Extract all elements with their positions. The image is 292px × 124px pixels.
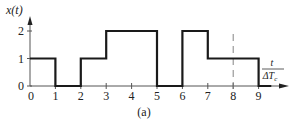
y-axis-label: x(t) [5,3,23,17]
x-tick-label: 0 [28,89,34,103]
ticks [27,31,259,89]
x-tick-label: 3 [103,89,109,103]
x-tick-label: 5 [154,89,160,103]
x-tick-label: 8 [230,89,236,103]
y-tick-labels: 012 [18,24,24,93]
x-tick-label: 6 [179,89,185,103]
step-signal-plot: 0123456789 012 x(t) t ΔTc (a) [0,0,292,124]
x-axis-arrow-icon [279,84,289,89]
y-tick-label: 2 [18,24,24,38]
x-tick-label: 7 [205,89,211,103]
x-label-numerator: t [271,57,274,68]
x-tick-label: 9 [256,89,262,103]
x-label-denominator: ΔTc [262,70,278,83]
y-tick-label: 0 [18,79,24,93]
signal-trace [30,31,271,86]
x-axis-label: t ΔTc [262,57,284,83]
x-tick-label: 2 [78,89,84,103]
y-axis-arrow-icon [28,16,33,25]
x-tick-label: 1 [52,89,58,103]
x-tick-labels: 0123456789 [28,89,262,103]
x-tick-label: 4 [129,89,135,103]
y-tick-label: 1 [18,52,24,66]
figure-caption: (a) [137,105,150,119]
